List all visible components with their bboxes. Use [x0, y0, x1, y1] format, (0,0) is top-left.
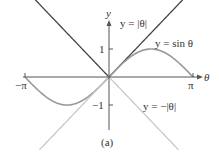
tick-label-neg-pi: −π: [15, 79, 27, 91]
sin-curve-label: y = sin θ: [155, 37, 193, 49]
y-axis-label: y: [105, 7, 111, 19]
x-axis-label: θ: [204, 71, 210, 83]
tick-label-pos-pi: π: [188, 79, 194, 91]
x-axis-arrow-icon: [197, 75, 203, 80]
tick-label-y-neg-one: −1: [92, 99, 104, 111]
tick-label-y-one: 1: [99, 43, 105, 55]
abs-curve-label: y = |θ|: [120, 17, 147, 29]
figure-caption: (a): [101, 136, 114, 149]
figure: y θ −π π 1 −1 y = |θ| y = sin θ y = −|θ|…: [0, 0, 219, 158]
y-axis-arrow-icon: [107, 20, 112, 26]
negabs-curve-label: y = −|θ|: [143, 100, 176, 112]
